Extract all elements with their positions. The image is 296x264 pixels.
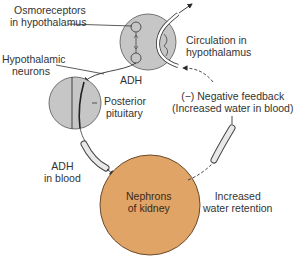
posterior-pituitary-node	[49, 77, 101, 129]
osmoreceptors-label: Osmoreceptors in hypothalamus	[10, 4, 86, 28]
adh-blood-line2: in blood	[44, 172, 81, 184]
water-retention-label: Increased water retention	[203, 190, 272, 214]
hypothalamic-neurons-label: Hypothalamic neurons	[2, 53, 66, 77]
circulation-line1: Circulation in	[186, 34, 251, 46]
feedback-line1: (−) Negative feedback	[172, 90, 293, 102]
adh-blood-line1: ADH	[44, 160, 81, 172]
osmoreceptors-line1: Osmoreceptors	[10, 4, 86, 16]
circulation-label: Circulation in hypothalamus	[186, 34, 251, 58]
kidney-label: Nephrons of kidney	[126, 190, 172, 214]
posterior-line2: pituitary	[104, 107, 146, 119]
hypothalamic-line2: neurons	[2, 65, 66, 77]
posterior-line1: Posterior	[104, 95, 146, 107]
blood-vessel-left	[80, 128, 114, 175]
diagram-canvas	[0, 0, 296, 264]
circulation-line2: hypothalamus	[186, 46, 251, 58]
posterior-pituitary-label: Posterior pituitary	[104, 95, 146, 119]
negative-feedback-label: (−) Negative feedback (Increased water i…	[172, 90, 293, 114]
retention-line1: Increased	[203, 190, 272, 202]
hypothalamic-line1: Hypothalamic	[2, 53, 66, 65]
feedback-path	[183, 68, 232, 180]
adh-label: ADH	[120, 74, 142, 86]
adh-in-blood-label: ADH in blood	[44, 160, 81, 184]
retention-line2: water retention	[203, 202, 272, 214]
kidney-line1: Nephrons	[126, 190, 172, 202]
kidney-line2: of kidney	[126, 202, 172, 214]
feedback-line2: (Increased water in blood)	[172, 102, 293, 114]
osmoreceptors-line2: in hypothalamus	[10, 16, 86, 28]
